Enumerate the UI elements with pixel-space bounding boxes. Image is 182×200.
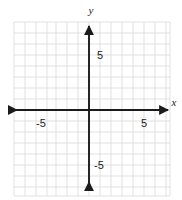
x-axis-label: x bbox=[171, 96, 177, 108]
x-axis-tick-positive-five: 5 bbox=[141, 117, 147, 129]
y-axis-tick-positive-five: 5 bbox=[97, 49, 103, 61]
y-axis-tick-negative-five: -5 bbox=[94, 159, 104, 171]
coordinate-plane-figure: -5 5 5 -5 x y bbox=[0, 0, 182, 200]
x-axis-tick-negative-five: -5 bbox=[36, 117, 46, 129]
y-axis-label: y bbox=[88, 4, 94, 16]
graph-canvas: -5 5 5 -5 x y bbox=[0, 0, 182, 200]
